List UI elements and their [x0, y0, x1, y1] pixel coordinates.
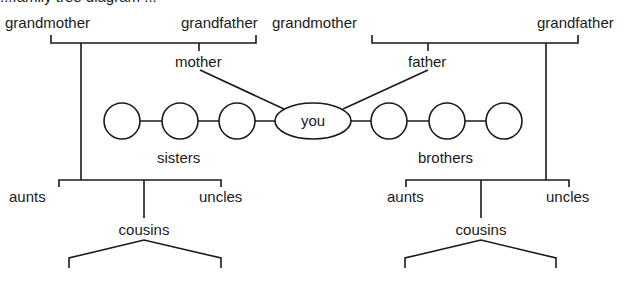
sister-node-3 — [219, 103, 255, 139]
brothers-label: brothers — [418, 149, 473, 166]
you-label: you — [301, 112, 325, 129]
left-cousins-label: cousins — [119, 221, 170, 238]
right-aunts-uncles-bracket — [406, 180, 569, 187]
family-tree-diagram: grandmother grandfather mother grandmoth… — [0, 0, 628, 292]
brother-node-3 — [486, 103, 522, 139]
sister-node-2 — [162, 103, 198, 139]
left-uncles-label: uncles — [199, 188, 242, 205]
left-aunts-label: aunts — [9, 188, 46, 205]
right-grandfather-label: grandfather — [537, 14, 614, 31]
father-label: father — [408, 53, 446, 70]
left-grandmother-label: grandmother — [5, 14, 90, 31]
right-grandparents-bracket — [372, 35, 578, 43]
mother-label: mother — [175, 53, 222, 70]
sister-node-1 — [104, 103, 140, 139]
right-cousins-label: cousins — [456, 221, 507, 238]
left-aunts-uncles-bracket — [59, 180, 221, 187]
right-cousins-branch — [405, 240, 556, 268]
left-grandparents-bracket — [51, 35, 256, 43]
right-aunts-label: aunts — [387, 188, 424, 205]
right-uncles-label: uncles — [546, 188, 589, 205]
sisters-label: sisters — [157, 149, 200, 166]
left-cousins-branch — [69, 240, 221, 268]
brother-node-2 — [429, 103, 465, 139]
left-grandfather-label: grandfather — [181, 14, 258, 31]
right-grandmother-label: grandmother — [272, 14, 357, 31]
brother-node-1 — [371, 103, 407, 139]
